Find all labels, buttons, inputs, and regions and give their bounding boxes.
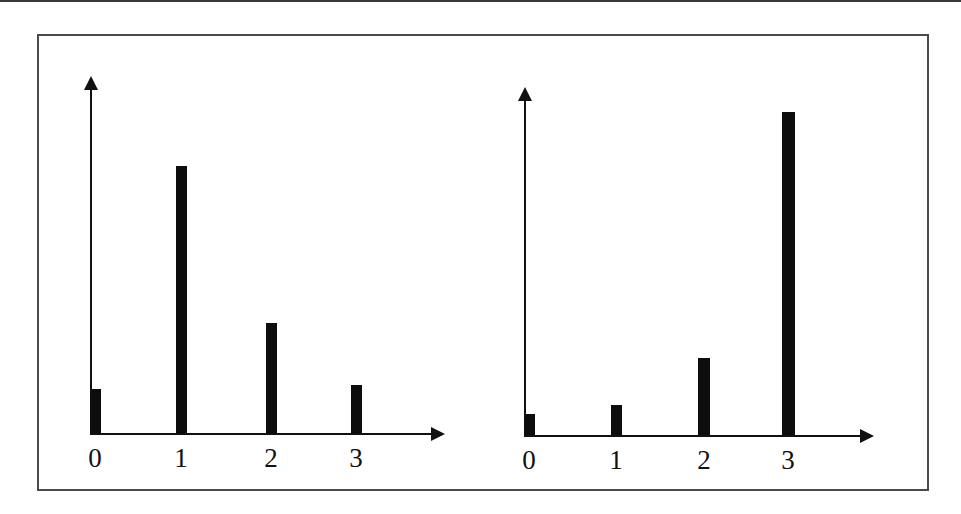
- x-tick-label-left-1: 1: [161, 445, 201, 472]
- figure-border-box: 0 1 2 3 0 1 2 3: [37, 34, 929, 491]
- chart-panel-left: 0 1 2 3: [39, 36, 485, 493]
- bar-right-3: [782, 112, 795, 435]
- x-tick-label-right-1: 1: [596, 447, 636, 474]
- chart-panel-right: 0 1 2 3: [485, 36, 931, 493]
- y-axis-arrow-icon-right: [518, 87, 532, 101]
- x-tick-label-left-2: 2: [251, 445, 291, 472]
- bar-left-2: [266, 323, 277, 433]
- x-tick-label-left-3: 3: [336, 445, 376, 472]
- bar-right-1: [611, 405, 622, 435]
- plot-area-left: 0 1 2 3: [39, 36, 485, 493]
- x-axis-line-right: [524, 435, 872, 437]
- bar-left-3: [351, 385, 362, 433]
- x-tick-label-left-0: 0: [75, 445, 115, 472]
- bar-right-0: [524, 414, 535, 435]
- y-axis-line-left: [90, 88, 92, 435]
- bar-left-1: [176, 166, 187, 433]
- bar-right-2: [698, 358, 710, 435]
- x-axis-line-left: [90, 433, 442, 435]
- y-axis-arrow-icon-left: [84, 76, 98, 90]
- x-tick-label-right-2: 2: [684, 447, 724, 474]
- x-axis-arrow-icon-right: [860, 429, 874, 443]
- bar-left-0: [90, 389, 101, 433]
- x-axis-arrow-icon-left: [431, 427, 445, 441]
- plot-area-right: 0 1 2 3: [485, 36, 931, 493]
- x-tick-label-right-3: 3: [768, 447, 808, 474]
- y-axis-line-right: [524, 100, 526, 435]
- x-tick-label-right-0: 0: [509, 447, 549, 474]
